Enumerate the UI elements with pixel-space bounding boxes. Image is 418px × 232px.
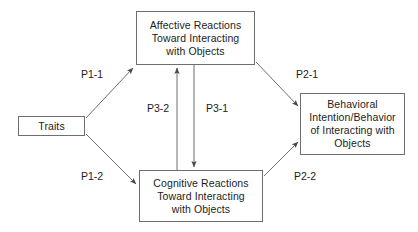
node-behavioral-line-1: Behavioral <box>327 98 378 111</box>
edge-label-p3-1: P3-1 <box>206 102 228 114</box>
node-traits[interactable]: Traits <box>18 116 85 136</box>
node-affective-reactions[interactable]: Affective Reactions Toward Interacting w… <box>136 11 255 65</box>
node-behavioral-line-3: of Interacting with <box>310 124 394 137</box>
edge-label-p1-1: P1-1 <box>81 68 103 80</box>
node-affective-line-3: with Objects <box>166 45 224 58</box>
node-behavioral-intention[interactable]: Behavioral Intention/Behavior of Interac… <box>300 93 405 155</box>
node-behavioral-line-4: Objects <box>334 137 370 150</box>
node-behavioral-line-2: Intention/Behavior <box>309 111 395 124</box>
edge-label-p2-1: P2-1 <box>296 68 318 80</box>
node-affective-line-1: Affective Reactions <box>150 19 242 32</box>
node-affective-line-2: Toward Interacting <box>152 32 240 45</box>
node-cognitive-line-2: Toward Interacting <box>157 190 245 203</box>
edge-label-p1-2: P1-2 <box>81 170 103 182</box>
node-traits-line-1: Traits <box>38 120 64 133</box>
node-cognitive-line-3: with Objects <box>172 203 230 216</box>
diagram-canvas: Traits Affective Reactions Toward Intera… <box>0 0 418 232</box>
edge-label-p3-2: P3-2 <box>147 102 169 114</box>
node-cognitive-reactions[interactable]: Cognitive Reactions Toward Interacting w… <box>139 170 263 222</box>
edge-affective-to-behavioral <box>256 62 298 106</box>
edge-cognitive-to-behavioral <box>264 142 298 176</box>
node-cognitive-line-1: Cognitive Reactions <box>153 177 248 190</box>
edge-label-p2-2: P2-2 <box>294 170 316 182</box>
